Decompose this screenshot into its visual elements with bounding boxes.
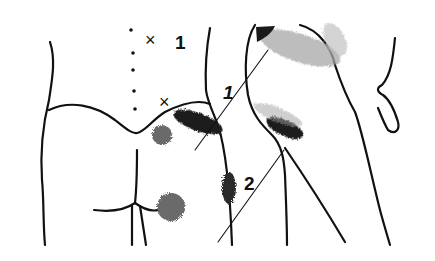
trigger-point-marker-2: × bbox=[159, 93, 170, 111]
trigger-point-label-1: 1 bbox=[175, 33, 186, 52]
back-view-body bbox=[41, 28, 232, 245]
left-flank-outline bbox=[41, 42, 53, 245]
anatomy-diagram bbox=[0, 0, 435, 261]
gluteal-cleft bbox=[135, 150, 137, 203]
posterior-thigh-line bbox=[285, 148, 345, 242]
sacral-spot bbox=[152, 125, 172, 145]
trigger-point-marker-1: × bbox=[145, 31, 156, 49]
lower-buttock-spot bbox=[157, 193, 185, 221]
hand-outline bbox=[378, 38, 398, 132]
zone-label-2: 2 bbox=[244, 174, 255, 193]
right-flank-outline bbox=[206, 28, 232, 245]
buttock-back-outline bbox=[246, 25, 287, 245]
zone-label-1: 1 bbox=[223, 83, 234, 102]
gluteal-fold-left bbox=[94, 203, 135, 211]
lateral-thigh-zone bbox=[222, 172, 236, 204]
spine-dots bbox=[129, 28, 137, 111]
gluteal-fold-right bbox=[135, 203, 158, 211]
inner-leg-right bbox=[140, 206, 146, 245]
